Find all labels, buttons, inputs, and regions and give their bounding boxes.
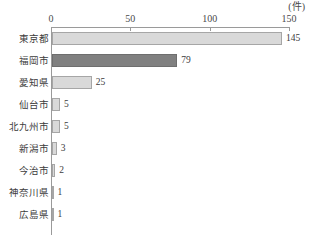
x-axis-line [51, 27, 289, 28]
category-label: 東京都 [0, 33, 49, 46]
category-label: 神奈川県 [0, 187, 49, 200]
category-label: 北九州市 [0, 121, 49, 134]
bar [52, 120, 60, 133]
bar-container [52, 54, 177, 68]
bar-highlighted [52, 54, 177, 67]
bar [52, 76, 92, 89]
bar-row: 新潟市3 [0, 139, 316, 161]
category-label: 今治市 [0, 165, 49, 178]
bar-row: 愛知県25 [0, 73, 316, 95]
value-label: 3 [61, 142, 66, 155]
x-axis-tick-label: 0 [49, 13, 54, 24]
bar-chart: (件) 050100150 東京都145福岡市79愛知県25仙台市5北九州市5新… [0, 0, 316, 246]
bar-container [52, 186, 54, 200]
category-label: 新潟市 [0, 143, 49, 156]
value-label: 5 [64, 120, 69, 133]
bar-container [52, 76, 92, 90]
x-axis-tick-label: 50 [125, 13, 135, 24]
category-label: 福岡市 [0, 55, 49, 68]
bar-container [52, 208, 54, 222]
x-axis-tick-label: 100 [202, 13, 217, 24]
bar-row: 広島県1 [0, 205, 316, 227]
x-axis-tick-label: 150 [282, 13, 297, 24]
value-label: 2 [59, 164, 64, 177]
value-label: 79 [181, 54, 191, 67]
category-label: 愛知県 [0, 77, 49, 90]
bar [52, 142, 57, 155]
category-label: 広島県 [0, 209, 49, 222]
bar [52, 164, 55, 177]
bar-row: 仙台市5 [0, 95, 316, 117]
bar-container [52, 164, 55, 178]
bar [52, 98, 60, 111]
bar-row: 神奈川県1 [0, 183, 316, 205]
bar-row: 今治市2 [0, 161, 316, 183]
value-label: 145 [286, 32, 300, 45]
bar [52, 208, 54, 221]
bar-container [52, 120, 60, 134]
bar-row: 北九州市5 [0, 117, 316, 139]
bar-rows: 東京都145福岡市79愛知県25仙台市5北九州市5新潟市3今治市2神奈川県1広島… [0, 29, 316, 227]
axis-unit-label: (件) [288, 1, 305, 12]
bar [52, 32, 282, 45]
bar-container [52, 98, 60, 112]
value-label: 5 [64, 98, 69, 111]
bar-row: 東京都145 [0, 29, 316, 51]
value-label: 1 [58, 186, 63, 199]
value-label: 25 [96, 76, 106, 89]
bar-container [52, 142, 57, 156]
bar-row: 福岡市79 [0, 51, 316, 73]
bar-container [52, 32, 282, 46]
bar [52, 186, 54, 199]
category-label: 仙台市 [0, 99, 49, 112]
value-label: 1 [58, 208, 63, 221]
